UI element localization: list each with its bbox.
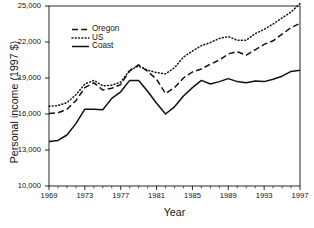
- y-tick-label: 16,000: [11, 109, 41, 118]
- plot-frame: [49, 6, 300, 186]
- y-tick-label: 13,000: [11, 145, 41, 154]
- x-tick-label: 1989: [213, 191, 243, 200]
- legend-label-coast: Coast: [92, 41, 113, 50]
- x-tick-label: 1973: [70, 191, 100, 200]
- chart-figure: Personal income (1997 $) Year 10,00013,0…: [0, 0, 314, 228]
- y-axis-ticks: [45, 6, 49, 186]
- x-axis-title: Year: [49, 206, 300, 218]
- y-axis-title: Personal income (1997 $): [8, 22, 20, 182]
- x-tick-label: 1981: [142, 191, 172, 200]
- x-tick-label: 1969: [34, 191, 64, 200]
- y-tick-label: 25,000: [11, 1, 41, 10]
- y-tick-label: 22,000: [11, 37, 41, 46]
- y-tick-label: 19,000: [11, 73, 41, 82]
- x-tick-label: 1997: [285, 191, 314, 200]
- x-axis-ticks: [49, 186, 300, 190]
- x-tick-label: 1985: [177, 191, 207, 200]
- x-tick-label: 1993: [249, 191, 279, 200]
- x-tick-label: 1977: [106, 191, 136, 200]
- y-tick-label: 10,000: [11, 181, 41, 190]
